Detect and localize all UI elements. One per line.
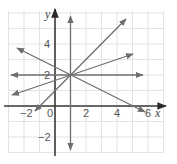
line-y-equals-x-plus-1 xyxy=(35,19,126,111)
y-tick-label: 4 xyxy=(44,38,50,50)
y-axis-label: y xyxy=(44,7,51,21)
x-tick-label: 2 xyxy=(83,107,89,119)
x-tick-label: −2 xyxy=(20,107,33,119)
x-tick-label: 0 xyxy=(47,107,53,119)
x-tick-label: 6 xyxy=(145,107,151,119)
x-axis-label: x xyxy=(154,106,161,120)
line-slope-negative-half xyxy=(17,48,145,112)
x-tick-label: 4 xyxy=(114,107,120,119)
y-tick-label: −2 xyxy=(38,131,51,143)
coordinate-plane-chart: −2 0 2 4 6 4 2 −2 x y xyxy=(0,0,177,164)
y-tick-label: 2 xyxy=(44,69,50,81)
